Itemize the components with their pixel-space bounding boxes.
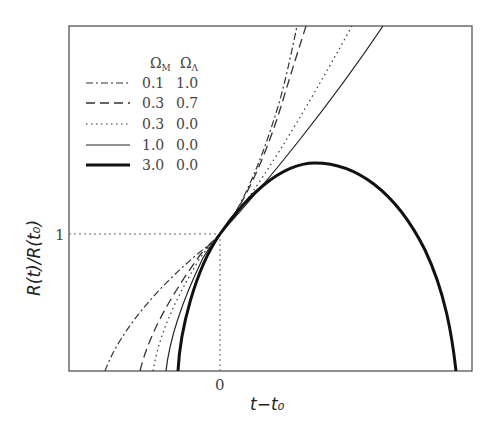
legend-header-omega-lambda: ΩΛ: [180, 55, 199, 73]
chart-canvas: ΩM ΩΛ 0.1 1.0 0.3 0.7 0.3 0.0 1.0 0.0 3.…: [0, 0, 494, 430]
y-axis-label: R(t)/R(t₀): [24, 220, 44, 296]
legend-header-omega-m: ΩM: [150, 55, 171, 73]
legend-row-1-m: 0.1: [142, 75, 164, 91]
series-dashdot-0.1-1.0: [105, 26, 297, 371]
x-axis-label: t−t₀: [250, 394, 285, 414]
legend-row-3-m: 0.3: [142, 116, 164, 132]
legend-row-4-l: 0.0: [176, 137, 198, 153]
legend-row-5-l: 0.0: [176, 157, 198, 173]
legend: ΩM ΩΛ 0.1 1.0 0.3 0.7 0.3 0.0 1.0 0.0 3.…: [86, 55, 199, 173]
legend-row-5-m: 3.0: [142, 157, 164, 173]
legend-row-3-l: 0.0: [176, 116, 198, 132]
series-solid-1.0-0.0: [166, 26, 383, 371]
x-tick-0: 0: [215, 376, 225, 394]
legend-row-1-l: 1.0: [176, 75, 198, 91]
legend-row-2-m: 0.3: [142, 95, 164, 111]
y-tick-1: 1: [55, 226, 65, 244]
plot-frame: [69, 26, 472, 371]
legend-row-2-l: 0.7: [176, 95, 198, 111]
series-dashed-0.3-0.7: [140, 26, 306, 371]
legend-row-4-m: 1.0: [142, 137, 164, 153]
